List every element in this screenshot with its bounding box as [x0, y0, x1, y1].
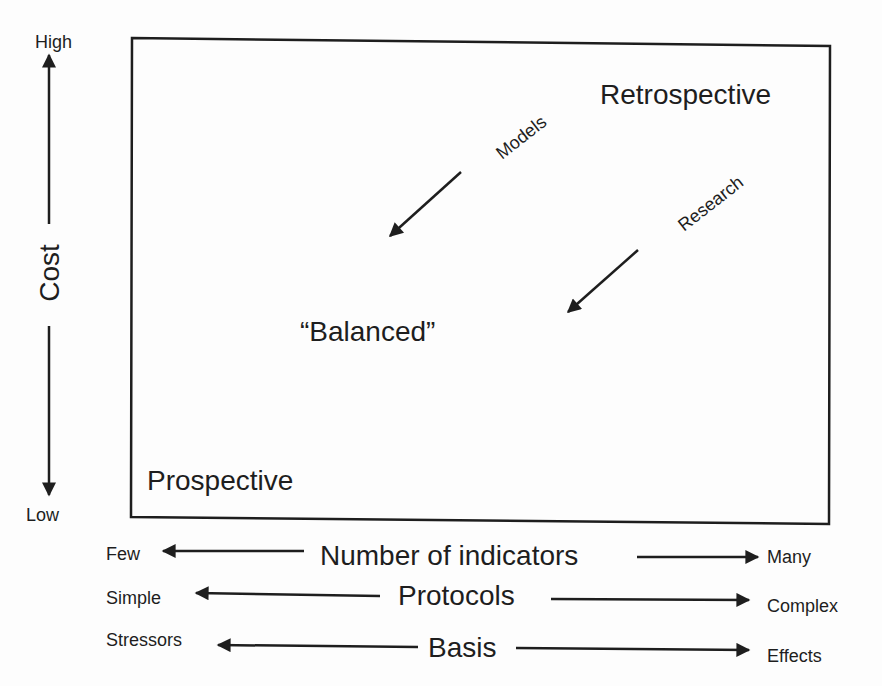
models-arrow-icon — [390, 172, 461, 236]
left-arrow-icon — [196, 593, 380, 596]
label-balanced: “Balanced” — [300, 316, 435, 347]
label-research: Research — [674, 172, 747, 235]
x-axis-title-basis: Basis — [428, 632, 496, 663]
label-retrospective: Retrospective — [600, 79, 771, 110]
research-arrow-icon — [568, 250, 638, 312]
x-axis-right-label-many: Many — [767, 547, 811, 567]
diagram-canvas: High Cost Low Retrospective “Balanced” P… — [0, 0, 882, 686]
x-axis-left-label-few: Few — [106, 544, 141, 564]
label-prospective: Prospective — [147, 465, 293, 496]
x-axis-left-label-stressors: Stressors — [106, 630, 182, 650]
left-arrow-icon — [218, 645, 418, 647]
x-axis-right-label-complex: Complex — [767, 596, 838, 616]
x-axis-number-of-indicators: Few Number of indicators Many — [106, 540, 811, 571]
research-arrow-group: Research — [568, 172, 747, 312]
right-arrow-icon — [516, 648, 749, 650]
x-axis-right-label-effects: Effects — [767, 646, 822, 666]
right-arrow-icon — [551, 599, 749, 600]
y-axis: High Cost Low — [26, 32, 72, 525]
models-arrow-group: Models — [390, 112, 550, 236]
x-axis-title-protocols: Protocols — [398, 580, 515, 611]
y-axis-title: Cost — [34, 244, 65, 302]
x-axis-left-label-simple: Simple — [106, 588, 161, 608]
x-axis-title-number-of-indicators: Number of indicators — [320, 540, 578, 571]
label-models: Models — [492, 112, 550, 163]
y-axis-low-label: Low — [26, 505, 60, 525]
x-axis-basis: Stressors Basis Effects — [106, 630, 822, 666]
main-frame — [131, 38, 830, 524]
x-axis-protocols: Simple Protocols Complex — [106, 580, 838, 616]
y-axis-high-label: High — [35, 32, 72, 52]
